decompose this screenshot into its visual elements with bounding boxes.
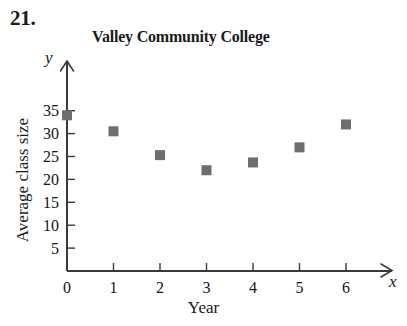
y-tick-label: 10 bbox=[43, 217, 59, 234]
figure-scatter-plot: 21. Valley Community College y x Average… bbox=[0, 0, 407, 326]
x-tick-label: 6 bbox=[342, 279, 350, 296]
x-tick-label: 3 bbox=[203, 279, 211, 296]
axes bbox=[61, 61, 393, 277]
x-tick-label: 0 bbox=[63, 279, 71, 296]
y-tick-label: 5 bbox=[51, 240, 59, 257]
x-tick-label: 5 bbox=[296, 279, 304, 296]
data-point-group bbox=[62, 110, 351, 175]
data-point-marker bbox=[109, 126, 119, 136]
y-tick-label: 20 bbox=[43, 171, 59, 188]
data-point-marker bbox=[295, 142, 305, 152]
x-tick-group: 0123456 bbox=[63, 263, 350, 296]
x-tick-label: 2 bbox=[156, 279, 164, 296]
y-tick-label: 25 bbox=[43, 148, 59, 165]
data-point-marker bbox=[62, 110, 72, 120]
data-point-marker bbox=[155, 150, 165, 160]
data-point-marker bbox=[341, 119, 351, 129]
x-tick-label: 1 bbox=[110, 279, 118, 296]
data-point-marker bbox=[202, 165, 212, 175]
y-tick-label: 35 bbox=[43, 102, 59, 119]
y-tick-label: 30 bbox=[43, 125, 59, 142]
y-tick-label: 15 bbox=[43, 194, 59, 211]
y-tick-group: 5101520253035 bbox=[43, 102, 75, 256]
x-tick-label: 4 bbox=[249, 279, 257, 296]
plot-area: 5101520253035 0123456 bbox=[0, 0, 407, 326]
data-point-marker bbox=[248, 157, 258, 167]
